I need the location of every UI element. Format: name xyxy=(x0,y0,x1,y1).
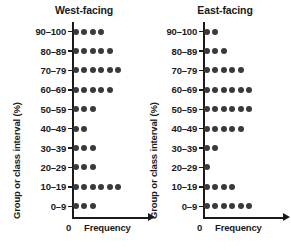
data-dot xyxy=(238,126,244,132)
dot-plot-row: 50–59 xyxy=(16,100,142,119)
data-dot xyxy=(204,126,210,132)
row-category-label: 60–69 xyxy=(153,84,200,95)
data-dot xyxy=(212,48,218,54)
row-category-label: 0–9 xyxy=(16,201,69,212)
dot-plot-row: 0–9 xyxy=(16,197,142,216)
data-dot xyxy=(204,48,210,54)
dot-group xyxy=(204,184,238,190)
dot-group xyxy=(73,126,90,132)
data-dot xyxy=(98,67,104,73)
dot-group xyxy=(204,87,254,93)
data-dot xyxy=(212,126,218,132)
data-dot xyxy=(73,164,79,170)
row-category-label: 50–59 xyxy=(153,104,200,115)
data-dot xyxy=(107,48,113,54)
row-category-label: 20–29 xyxy=(16,162,69,173)
data-dot xyxy=(238,67,244,73)
dot-group xyxy=(73,67,123,73)
x-axis-origin-label-east: 0 xyxy=(197,222,202,233)
row-category-label: 50–59 xyxy=(16,104,69,115)
row-category-label: 30–39 xyxy=(153,143,200,154)
row-category-label: 90–100 xyxy=(16,26,69,37)
data-dot xyxy=(229,203,235,209)
dot-group xyxy=(204,67,246,73)
data-dot xyxy=(229,67,235,73)
plot-area-west: 90–10080–8970–7960–6950–5940–4930–3920–2… xyxy=(16,22,142,218)
dot-group xyxy=(73,203,98,209)
data-dot xyxy=(229,87,235,93)
data-dot xyxy=(246,203,252,209)
dot-plot-row: 80–89 xyxy=(153,41,283,60)
data-dot xyxy=(204,87,210,93)
data-dot xyxy=(98,184,104,190)
data-dot xyxy=(73,48,79,54)
dot-plot-row: 30–39 xyxy=(153,138,283,157)
data-dot xyxy=(221,48,227,54)
dot-group xyxy=(204,106,254,112)
dot-plot-row: 60–69 xyxy=(153,80,283,99)
data-dot xyxy=(212,145,218,151)
dot-plot-row: 90–100 xyxy=(153,22,283,41)
data-dot xyxy=(212,87,218,93)
row-category-label: 10–19 xyxy=(16,181,69,192)
data-dot xyxy=(90,67,96,73)
dot-group xyxy=(73,184,123,190)
data-dot xyxy=(221,67,227,73)
dot-group xyxy=(204,203,254,209)
dot-rows-west: 90–10080–8970–7960–6950–5940–4930–3920–2… xyxy=(16,22,142,218)
dot-plot-row: 30–39 xyxy=(16,138,142,157)
data-dot xyxy=(238,87,244,93)
panel-title-west: West-facing xyxy=(0,4,146,16)
x-axis-label-west: Frequency xyxy=(84,222,131,233)
dot-group xyxy=(73,145,98,151)
dot-plot-row: 50–59 xyxy=(153,100,283,119)
data-dot xyxy=(90,145,96,151)
data-dot xyxy=(73,29,79,35)
row-category-label: 70–79 xyxy=(16,65,69,76)
dot-plot-row: 40–49 xyxy=(153,119,283,138)
data-dot xyxy=(90,106,96,112)
data-dot xyxy=(81,126,87,132)
data-dot xyxy=(204,106,210,112)
plot-area-east: 90–10080–8970–7960–6950–5940–4930–3920–2… xyxy=(153,22,283,218)
data-dot xyxy=(212,203,218,209)
dot-plot-figure: West-facing Group or class interval (%) … xyxy=(0,0,291,250)
data-dot xyxy=(98,29,104,35)
dot-group xyxy=(204,48,229,54)
data-dot xyxy=(212,29,218,35)
data-dot xyxy=(81,203,87,209)
data-dot xyxy=(81,184,87,190)
data-dot xyxy=(229,126,235,132)
row-category-label: 10–19 xyxy=(153,181,200,192)
chart-panel-west-facing: West-facing Group or class interval (%) … xyxy=(0,0,146,250)
dot-plot-row: 10–19 xyxy=(16,177,142,196)
data-dot xyxy=(204,203,210,209)
dot-group xyxy=(204,145,221,151)
data-dot xyxy=(115,67,121,73)
row-category-label: 40–49 xyxy=(153,123,200,134)
chart-panel-east-facing: East-facing Group or class interval (%) … xyxy=(145,0,291,250)
data-dot xyxy=(115,184,121,190)
data-dot xyxy=(73,145,79,151)
dot-group xyxy=(73,106,98,112)
data-dot xyxy=(98,87,104,93)
row-category-label: 0–9 xyxy=(153,201,200,212)
dot-plot-row: 70–79 xyxy=(16,61,142,80)
data-dot xyxy=(81,29,87,35)
data-dot xyxy=(98,48,104,54)
dot-plot-row: 90–100 xyxy=(16,22,142,41)
data-dot xyxy=(246,87,252,93)
row-category-label: 40–49 xyxy=(16,123,69,134)
data-dot xyxy=(73,106,79,112)
x-axis-origin-label-west: 0 xyxy=(66,222,71,233)
row-category-label: 80–89 xyxy=(16,46,69,57)
panel-title-east: East-facing xyxy=(145,4,291,16)
row-category-label: 20–29 xyxy=(153,162,200,173)
dot-plot-row: 10–19 xyxy=(153,177,283,196)
data-dot xyxy=(73,67,79,73)
data-dot xyxy=(81,48,87,54)
data-dot xyxy=(107,184,113,190)
row-category-label: 60–69 xyxy=(16,84,69,95)
data-dot xyxy=(81,164,87,170)
data-dot xyxy=(238,203,244,209)
